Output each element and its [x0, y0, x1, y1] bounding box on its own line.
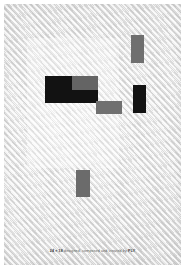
grey-block-step-right: [96, 101, 122, 114]
caption-signature: PLY: [128, 249, 135, 253]
black-block-lower-middle: [72, 90, 98, 103]
grey-block-top-right: [131, 35, 144, 63]
poster-canvas: 24 × 18 designed, composed and created b…: [0, 0, 185, 269]
black-block-large-left: [45, 76, 72, 103]
tonal-wash: [4, 4, 181, 265]
paper-field: 24 × 18 designed, composed and created b…: [4, 4, 181, 265]
grey-block-upper-middle: [72, 76, 98, 90]
caption-body: designed, composed and created by: [64, 249, 127, 253]
edge-vignette: [4, 4, 181, 265]
caption-dimensions: 24 × 18: [50, 249, 63, 253]
grey-block-bottom-centre: [76, 170, 90, 197]
diagonal-stripe-texture: [4, 4, 181, 265]
black-block-right: [133, 85, 146, 113]
artwork-caption: 24 × 18 designed, composed and created b…: [4, 249, 181, 253]
